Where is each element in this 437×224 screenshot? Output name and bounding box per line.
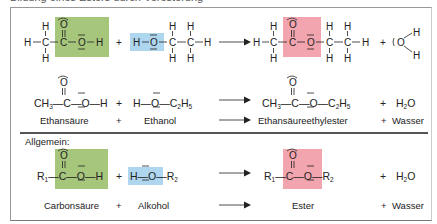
svg-text:H: H [169, 21, 176, 32]
svg-text:O: O [307, 37, 315, 48]
name-ethansaeure: Ethansäure [40, 115, 89, 126]
formula-alkohol: H—O—R2 [130, 170, 178, 183]
formula-carbonsaeure: R1—C—O—H [37, 170, 103, 183]
svg-text:O: O [289, 19, 297, 30]
svg-text:+: + [116, 37, 122, 48]
svg-text:H: H [187, 21, 194, 32]
name-ester: Ethansäureethylester [258, 115, 348, 126]
name-general-ester: Ester [292, 200, 314, 211]
svg-text:O: O [60, 77, 68, 88]
svg-text:C: C [169, 37, 176, 48]
name-general-water: Wasser [392, 200, 424, 211]
formula-water: H2O [396, 97, 415, 110]
section-divider [20, 132, 428, 134]
plus-sign: + [381, 200, 387, 211]
svg-text:O: O [60, 150, 68, 161]
svg-text:O: O [150, 37, 158, 48]
svg-text:O: O [289, 77, 297, 88]
name-alkohol: Alkohol [138, 200, 169, 211]
svg-text:H: H [42, 53, 49, 64]
svg-text:C: C [270, 37, 277, 48]
svg-text:H: H [362, 37, 369, 48]
svg-text:H: H [24, 37, 31, 48]
svg-text:H: H [344, 53, 351, 64]
svg-text:H: H [187, 53, 194, 64]
svg-text:H: H [204, 37, 211, 48]
svg-text:H: H [270, 53, 277, 64]
svg-text:H: H [270, 21, 277, 32]
name-carbonsaeure: Carbonsäure [44, 200, 99, 211]
svg-text:H: H [413, 50, 420, 61]
name-water: Wasser [392, 115, 424, 126]
svg-text:H: H [413, 27, 420, 38]
name-ethanol: Ethanol [144, 115, 176, 126]
svg-text:C: C [289, 37, 296, 48]
formula-ester: CH3—C—O—C2H5 [262, 97, 350, 110]
svg-text:H: H [344, 21, 351, 32]
plus-sign: + [116, 170, 122, 182]
svg-text:O: O [289, 150, 297, 161]
svg-text:H: H [169, 53, 176, 64]
plus-sign: + [116, 200, 122, 211]
svg-text:O: O [78, 37, 86, 48]
general-heading: Allgemein: [25, 136, 69, 147]
plus-sign: + [116, 97, 122, 109]
formula-ethanol: H—O—C2H5 [133, 97, 192, 110]
svg-text:H: H [96, 37, 103, 48]
plus-sign: + [380, 170, 386, 182]
svg-text:C: C [60, 37, 67, 48]
plus-sign: + [116, 115, 122, 126]
svg-text:H: H [253, 37, 260, 48]
svg-text:C: C [42, 37, 49, 48]
formula-ethansaeure: CH3—C—O—H [34, 97, 108, 110]
svg-text:H: H [133, 37, 140, 48]
svg-text:C: C [344, 37, 351, 48]
svg-text:H: H [326, 53, 333, 64]
formula-general-water: H2O [396, 170, 415, 183]
svg-text:O: O [60, 19, 68, 30]
plus-sign: + [381, 115, 387, 126]
svg-text:C: C [187, 37, 194, 48]
plus-sign: + [380, 97, 386, 109]
svg-text:H: H [326, 21, 333, 32]
svg-text:O: O [397, 37, 405, 48]
svg-text:H: H [42, 21, 49, 32]
formula-general-ester: R1—C—O—R2 [264, 170, 334, 183]
svg-text:+: + [380, 37, 386, 48]
svg-text:C: C [326, 37, 333, 48]
structural-formulas: H C H H C O O H + H O C H H C H [0, 0, 437, 224]
